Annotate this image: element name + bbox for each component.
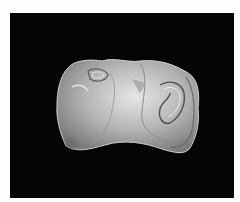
agate-stone-image [10,13,234,198]
photo-background: Banded agate slice [10,13,234,198]
